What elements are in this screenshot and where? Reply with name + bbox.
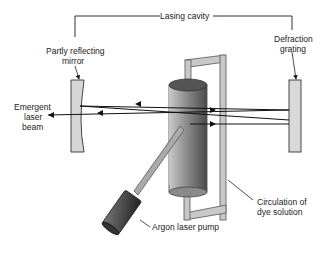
circulation-label-line1: Circulation of — [257, 197, 307, 207]
beam-label-line1: Emergent — [14, 102, 51, 112]
grating-label-line1: Defraction — [274, 34, 313, 44]
grating-label-line2: grating — [280, 44, 306, 54]
circulation-label-line2: dye solution — [257, 207, 302, 217]
circulation-pointer — [228, 180, 253, 200]
beam-label-line2: laser — [24, 112, 42, 122]
beam-label-line3: beam — [22, 122, 43, 132]
pump-label: Argon laser pump — [152, 222, 219, 232]
pump-pointer — [140, 220, 150, 227]
mirror-pointer — [75, 66, 79, 79]
grating-pointer — [292, 52, 296, 79]
diffraction-grating — [289, 80, 301, 152]
mirror-label-line1: Partly reflecting — [46, 46, 105, 56]
mirror-label-line2: mirror — [62, 56, 84, 66]
lasing-cavity-label: Lasing cavity — [160, 11, 209, 21]
partly-reflecting-mirror — [71, 80, 84, 152]
laser-beams — [48, 101, 289, 127]
